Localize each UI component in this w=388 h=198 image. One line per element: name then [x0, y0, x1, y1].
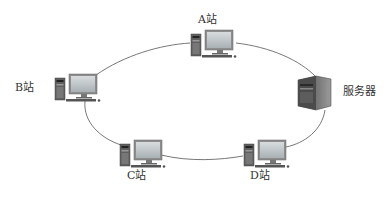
connection-lines	[85, 43, 325, 160]
link-b-a	[96, 43, 190, 75]
station-d-label: D站	[250, 170, 270, 182]
link-b-c	[85, 101, 121, 145]
link-c-d	[161, 155, 243, 160]
ring-network-diagram: A站 B站 C站 D站 服务器	[0, 0, 388, 198]
link-d-server	[286, 110, 325, 147]
link-a-server	[236, 43, 316, 77]
workstation-c-icon	[120, 140, 165, 168]
workstation-d-icon	[244, 140, 289, 168]
workstation-a-icon	[191, 30, 236, 58]
server-label: 服务器	[343, 86, 376, 98]
station-a-label: A站	[198, 14, 217, 26]
workstation-b-icon	[55, 74, 100, 102]
station-c-label: C站	[127, 170, 146, 182]
ring-links	[0, 0, 388, 198]
server-icon	[298, 76, 331, 110]
station-b-label: B站	[15, 82, 34, 94]
